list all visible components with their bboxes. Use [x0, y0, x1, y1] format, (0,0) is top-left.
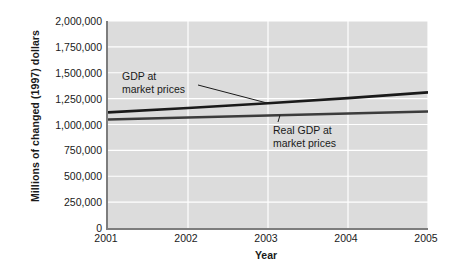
y-axis-tick-label: 2,000,000 — [28, 15, 102, 27]
x-axis-tick-label: 2001 — [94, 232, 117, 244]
y-axis-tick-label: 500,000 — [28, 170, 102, 182]
y-axis-tick-label: 1,500,000 — [28, 67, 102, 79]
x-axis-tick-label: 2003 — [254, 232, 277, 244]
y-axis-tick-labels: 0250,000500,000750,0001,000,0001,250,000… — [28, 0, 102, 275]
y-axis-tick-label: 1,750,000 — [28, 41, 102, 53]
annotation-real-gdp-line2: market prices — [273, 137, 336, 150]
annotation-gdp-at-market-prices: GDP at market prices — [122, 70, 185, 96]
y-axis-tick-label: 1,250,000 — [28, 93, 102, 105]
x-axis-tick-label: 2005 — [414, 232, 437, 244]
y-axis-tick-label: 750,000 — [28, 144, 102, 156]
y-axis-tick-label: 1,000,000 — [28, 119, 102, 131]
x-axis-tick-label: 2002 — [174, 232, 197, 244]
y-axis-tick-label: 0 — [28, 222, 102, 234]
annotation-real-gdp-line1: Real GDP at — [273, 124, 336, 137]
gridlines — [108, 21, 428, 228]
annotation-leader-line — [198, 85, 268, 103]
chart-figure: Millions of changed (1997) dollars 0250,… — [0, 0, 460, 275]
annotation-gdp-line1: GDP at — [122, 70, 185, 83]
annotation-real-gdp-at-market-prices: Real GDP at market prices — [273, 124, 336, 150]
plot-area — [106, 21, 428, 230]
y-axis-tick-label: 250,000 — [28, 196, 102, 208]
annotation-gdp-line2: market prices — [122, 83, 185, 96]
plot-svg — [108, 21, 428, 228]
x-axis-title: Year — [106, 249, 426, 261]
x-axis-tick-label: 2004 — [334, 232, 357, 244]
